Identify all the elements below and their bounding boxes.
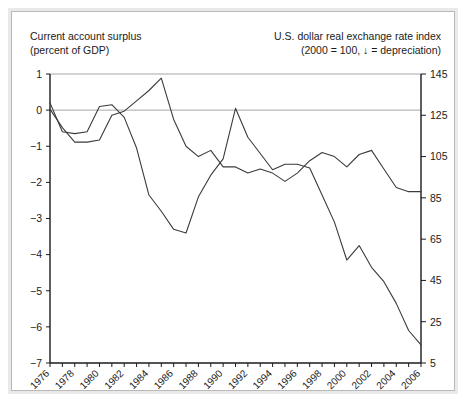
- gridlines: [50, 74, 421, 110]
- svg-text:85: 85: [430, 192, 442, 204]
- figure-frame: Current account surplus (percent of GDP)…: [8, 8, 458, 394]
- svg-text:1996: 1996: [275, 367, 299, 391]
- axis-spines: [50, 74, 421, 363]
- svg-text:65: 65: [430, 233, 442, 245]
- svg-text:−2: −2: [30, 176, 42, 188]
- svg-text:2006: 2006: [399, 367, 423, 391]
- svg-text:125: 125: [430, 109, 448, 121]
- svg-text:−3: −3: [30, 212, 42, 224]
- svg-text:1998: 1998: [300, 367, 324, 391]
- svg-text:1976: 1976: [28, 367, 52, 391]
- series-lines: [50, 78, 421, 345]
- svg-text:1992: 1992: [226, 367, 250, 391]
- y-left-ticks: 10−1−2−3−4−5−6−7: [30, 68, 50, 369]
- svg-text:105: 105: [430, 150, 448, 162]
- svg-text:0: 0: [36, 104, 42, 116]
- y-right-ticks: 145125105856545255: [421, 68, 448, 369]
- svg-text:1982: 1982: [102, 367, 126, 391]
- svg-text:1994: 1994: [251, 367, 275, 391]
- series-line: [50, 78, 421, 192]
- svg-text:5: 5: [430, 357, 436, 369]
- svg-text:1980: 1980: [77, 367, 101, 391]
- svg-text:2000: 2000: [325, 367, 349, 391]
- svg-text:1990: 1990: [201, 367, 225, 391]
- x-ticks: 1976197819801982198419861988199019921994…: [28, 363, 423, 391]
- figure-inner-border: Current account surplus (percent of GDP)…: [11, 11, 455, 391]
- svg-text:2002: 2002: [349, 367, 373, 391]
- svg-text:−7: −7: [30, 357, 42, 369]
- svg-text:1986: 1986: [152, 367, 176, 391]
- svg-text:145: 145: [430, 68, 448, 80]
- chart-plot: 10−1−2−3−4−5−6−7 145125105856545255 1976…: [12, 12, 456, 392]
- svg-text:−6: −6: [30, 321, 42, 333]
- svg-text:−4: −4: [30, 248, 42, 260]
- svg-text:2004: 2004: [374, 367, 398, 391]
- svg-text:1988: 1988: [176, 367, 200, 391]
- svg-text:25: 25: [430, 316, 442, 328]
- svg-text:1984: 1984: [127, 367, 151, 391]
- svg-text:45: 45: [430, 274, 442, 286]
- series-line: [50, 103, 421, 345]
- svg-text:−1: −1: [30, 140, 42, 152]
- svg-text:1: 1: [36, 68, 42, 80]
- svg-text:−5: −5: [30, 285, 42, 297]
- svg-text:1978: 1978: [53, 367, 77, 391]
